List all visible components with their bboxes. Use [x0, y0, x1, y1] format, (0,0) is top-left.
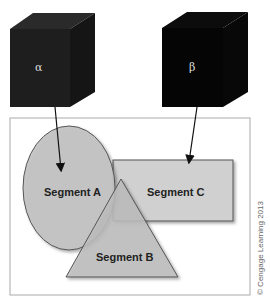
segment-b-label: Segment B — [96, 251, 154, 263]
beta-label: β — [189, 61, 195, 74]
alpha-label: α — [35, 61, 43, 74]
beta-cube: β — [162, 12, 248, 107]
segmentation-diagram: α β Segment A Segment C Segment B © Ceng… — [0, 0, 270, 306]
segment-a-label: Segment A — [44, 186, 101, 198]
copyright-notice: © Cengage Learning 2013 — [256, 200, 265, 295]
segment-c-label: Segment C — [147, 186, 205, 198]
alpha-cube: α — [10, 13, 95, 107]
